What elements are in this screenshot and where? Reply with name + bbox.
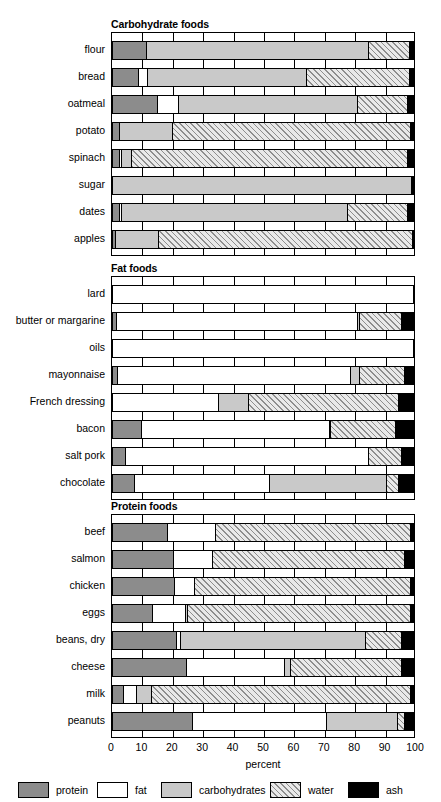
bar-segment-ash — [410, 605, 413, 622]
bar-segment-fat — [116, 313, 358, 330]
x-axis-tick: 60 — [288, 741, 300, 753]
category-label: chocolate — [0, 473, 105, 492]
bar-segment-water — [359, 367, 404, 384]
category-label: oatmeal — [0, 94, 105, 113]
stacked-bar — [112, 312, 414, 331]
bar-segment-protein — [113, 69, 138, 86]
bar-segment-fat — [186, 659, 284, 676]
category-label: oils — [0, 338, 105, 357]
bar-segment-fat — [125, 448, 368, 465]
stacked-bar — [112, 685, 414, 704]
panel-title: Fat foods — [111, 262, 157, 274]
bar-segment-ash — [395, 421, 413, 438]
bar-segment-carbohydrates — [269, 475, 386, 492]
stacked-bar — [112, 550, 414, 569]
category-label: lard — [0, 284, 105, 303]
stacked-bar — [112, 393, 414, 412]
legend-item-fat: fat — [97, 782, 147, 798]
bar-segment-protein — [113, 578, 174, 595]
category-label: apples — [0, 229, 105, 248]
legend-label: protein — [56, 784, 88, 796]
x-axis-tick: 90 — [379, 741, 391, 753]
category-label: sugar — [0, 175, 105, 194]
x-axis-tick: 20 — [166, 741, 178, 753]
legend-item-ash: ash — [348, 782, 403, 798]
legend-item-carbohydrates: carbohydrates — [161, 782, 266, 798]
bar-segment-ash — [401, 632, 413, 649]
bar-segment-water — [172, 123, 411, 140]
x-axis: 0102030405060708090100 — [111, 741, 415, 757]
legend-label: fat — [135, 784, 147, 796]
bar-segment-protein — [113, 524, 167, 541]
legend-swatch-carbohydrates — [161, 782, 192, 798]
legend-swatch-fat — [97, 782, 128, 798]
x-axis-tick: 80 — [348, 741, 360, 753]
stacked-bar — [112, 366, 414, 385]
bar-segment-fat — [173, 551, 212, 568]
bar-segment-protein — [113, 96, 157, 113]
bar-segment-fat — [192, 713, 326, 730]
bar-segment-protein — [113, 632, 176, 649]
category-label: dates — [0, 202, 105, 221]
stacked-bar — [112, 68, 414, 87]
bar-segment-protein — [113, 605, 152, 622]
bar-segment-ash — [410, 578, 413, 595]
bar-segment-water — [397, 713, 405, 730]
bar-segment-water — [187, 605, 410, 622]
bar-segment-water — [248, 394, 398, 411]
bar-segment-ash — [410, 123, 413, 140]
x-axis-tick: 100 — [406, 741, 424, 753]
bar-segment-water — [215, 524, 410, 541]
stacked-bar — [112, 523, 414, 542]
category-label: eggs — [0, 603, 105, 622]
stacked-bar — [112, 203, 414, 222]
bar-segment-ash — [407, 204, 413, 221]
bar-segment-fat — [157, 96, 178, 113]
legend-swatch-protein — [18, 782, 49, 798]
bar-segment-water — [131, 150, 407, 167]
bar-segment-water — [357, 96, 407, 113]
bar-segment-carbohydrates — [178, 96, 358, 113]
plot-area — [111, 32, 415, 256]
legend-label: carbohydrates — [199, 784, 266, 796]
stacked-bar — [112, 604, 414, 623]
bar-segment-fat — [113, 286, 413, 303]
bar-segment-water — [158, 231, 411, 248]
bar-segment-protein — [113, 448, 125, 465]
category-label: flour — [0, 40, 105, 59]
bar-segment-fat — [174, 578, 194, 595]
x-axis-tick: 30 — [196, 741, 208, 753]
bar-segment-water — [365, 632, 401, 649]
x-axis-tick: 0 — [108, 741, 114, 753]
bar-segment-ash — [407, 96, 413, 113]
bar-segment-carbohydrates — [350, 367, 359, 384]
plot-area — [111, 514, 415, 738]
bar-segment-carbohydrates — [326, 713, 397, 730]
stacked-bar — [112, 339, 414, 358]
legend-item-water: water — [270, 782, 334, 798]
category-label: beans, dry — [0, 630, 105, 649]
bar-segment-protein — [113, 659, 186, 676]
category-label: salt pork — [0, 446, 105, 465]
category-label: French dressing — [0, 392, 105, 411]
category-label: butter or margarine — [0, 311, 105, 330]
bar-segment-fat — [117, 367, 350, 384]
bar-segment-fat — [123, 686, 135, 703]
category-label: cheese — [0, 657, 105, 676]
category-label: milk — [0, 684, 105, 703]
stacked-bar — [112, 176, 414, 195]
legend-label: water — [308, 784, 334, 796]
bar-segment-ash — [411, 177, 413, 194]
bar-segment-ash — [398, 394, 413, 411]
stacked-bar — [112, 149, 414, 168]
bar-segment-protein — [113, 686, 123, 703]
bar-segment-water — [194, 578, 410, 595]
legend-label: ash — [386, 784, 403, 796]
bar-segment-water — [368, 448, 401, 465]
bar-segment-fat — [113, 340, 413, 357]
bar-segment-carbohydrates — [147, 69, 306, 86]
bar-segment-protein — [113, 713, 192, 730]
bar-segment-ash — [409, 42, 414, 59]
bar-segment-ash — [412, 231, 414, 248]
stacked-bar — [112, 122, 414, 141]
